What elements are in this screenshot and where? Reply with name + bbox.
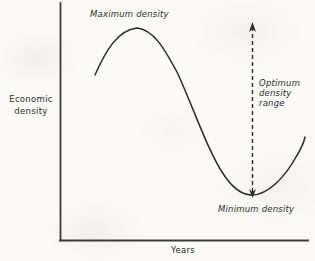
plot-area: [0, 0, 315, 261]
x-axis-label: Years: [158, 245, 208, 255]
y-axis-label-line-2: density: [6, 105, 56, 117]
economic-density-diagram: Maximum density Minimum density Optimum …: [0, 0, 315, 261]
label-optimum-density-range: Optimum density range: [259, 78, 305, 108]
optimum-range-line-1: Optimum: [259, 78, 305, 88]
y-axis-label: Economic density: [6, 93, 56, 117]
density-curve: [95, 28, 305, 195]
optimum-range-line-2: density: [259, 88, 305, 98]
optimum-range-line-3: range: [259, 98, 305, 108]
label-minimum-density: Minimum density: [218, 204, 294, 214]
y-axis-label-line-1: Economic: [6, 93, 56, 105]
label-maximum-density: Maximum density: [90, 9, 169, 19]
